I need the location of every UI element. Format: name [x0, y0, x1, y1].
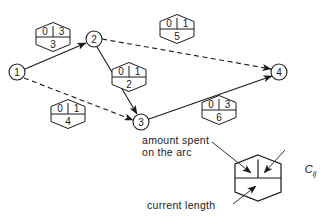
- arc-label-hexagon: 0 1 4: [51, 100, 85, 129]
- hex-length-value: 4: [65, 116, 71, 127]
- legend-current-length: current length: [147, 199, 215, 211]
- hex-spent-value: 0: [118, 66, 124, 77]
- arc-label-hexagon: 0 1 5: [160, 15, 194, 44]
- node-2-label: 2: [91, 34, 97, 45]
- hex-cij-value: 3: [59, 26, 65, 37]
- hex-length-value: 3: [50, 39, 56, 50]
- arc-label-hexagon: 0 3 3: [36, 23, 70, 52]
- hex-cij-value: 1: [135, 66, 141, 77]
- hex-spent-value: 0: [57, 103, 63, 114]
- legend-amount-spent-line1: amount spent: [142, 134, 209, 146]
- arc-label-hexagon: 0 1 2: [112, 63, 146, 92]
- node-4-label: 4: [276, 67, 282, 78]
- node-1: 1: [9, 64, 25, 80]
- hex-spent-value: 0: [208, 99, 214, 110]
- hex-cij-value: 1: [183, 18, 189, 29]
- hex-spent-value: 0: [42, 26, 48, 37]
- hex-spent-value: 0: [166, 18, 172, 29]
- arc-label-hexagon: 0 3 6: [202, 96, 236, 125]
- node-2: 2: [86, 31, 102, 47]
- node-3: 3: [133, 114, 149, 130]
- network-diagram-svg: 0 3 3 0 1 5 0 1 2: [0, 0, 324, 221]
- legend-amount-spent-line2: on the arc: [142, 146, 192, 158]
- leader-amount-spent: [212, 142, 251, 173]
- hex-length-value: 2: [126, 79, 132, 90]
- hex-length-value: 5: [174, 31, 180, 42]
- legend-layer: [212, 142, 285, 204]
- node-1-label: 1: [14, 67, 20, 78]
- node-4: 4: [271, 64, 287, 80]
- legend-cij-subscript: ij: [313, 169, 317, 178]
- hex-length-value: 6: [216, 112, 222, 123]
- node-3-label: 3: [138, 117, 144, 128]
- hex-cij-value: 1: [74, 103, 80, 114]
- legend-cij-main: C: [305, 163, 313, 175]
- legend-cij-label: Cij: [287, 141, 316, 195]
- hex-cij-value: 3: [225, 99, 231, 110]
- diagram-canvas: 0 3 3 0 1 5 0 1 2: [0, 0, 324, 221]
